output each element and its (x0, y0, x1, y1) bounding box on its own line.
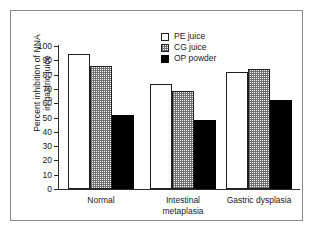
bar (226, 72, 248, 189)
legend-label-pe-juice: PE juice (174, 31, 205, 42)
x-category-label-line: Gastric dysplasia (227, 195, 292, 205)
x-category-label-line: metaplasia (130, 206, 236, 217)
y-tick-label: 40 (30, 127, 52, 136)
bar (172, 91, 194, 189)
y-tick-label: 20 (30, 156, 52, 165)
figure: Percent inhibition of NNA in gastric jui… (0, 0, 314, 235)
y-tick-mark (54, 46, 58, 47)
y-tick-mark (54, 132, 58, 133)
y-tick-mark (54, 60, 58, 61)
bar-group (226, 46, 292, 189)
legend-swatch-pe-juice (161, 33, 169, 41)
y-tick-mark (54, 118, 58, 119)
y-tick-mark (54, 146, 58, 147)
y-tick-label: 70 (30, 84, 52, 93)
y-tick-label: 100 (30, 42, 52, 51)
y-tick-label: 60 (30, 99, 52, 108)
bar (194, 120, 216, 189)
y-tick-label: 30 (30, 142, 52, 151)
x-category-label-line: Intestinal (166, 195, 200, 205)
figure-frame: Percent inhibition of NNA in gastric jui… (10, 10, 303, 221)
y-tick-mark (54, 160, 58, 161)
x-axis-line (58, 189, 300, 190)
y-tick-mark (54, 189, 58, 190)
bar (112, 115, 134, 189)
bar-group (68, 46, 134, 189)
y-tick-mark (54, 103, 58, 104)
y-tick-mark (54, 89, 58, 90)
legend-item-pe-juice: PE juice (161, 31, 216, 42)
y-tick-mark (54, 75, 58, 76)
bar-group (150, 46, 216, 189)
bar (248, 69, 270, 189)
plot-area (58, 46, 299, 189)
x-category-label-line: Normal (87, 195, 114, 205)
bar (68, 54, 90, 189)
bar (150, 84, 172, 189)
y-tick-mark (54, 175, 58, 176)
y-tick-label: 10 (30, 170, 52, 179)
y-tick-label: 50 (30, 113, 52, 122)
y-tick-label: 80 (30, 70, 52, 79)
bar (90, 66, 112, 189)
y-tick-label: 0 (30, 185, 52, 194)
x-category-label: Gastric dysplasia (206, 195, 312, 206)
y-tick-label: 90 (30, 56, 52, 65)
bar (270, 100, 292, 189)
